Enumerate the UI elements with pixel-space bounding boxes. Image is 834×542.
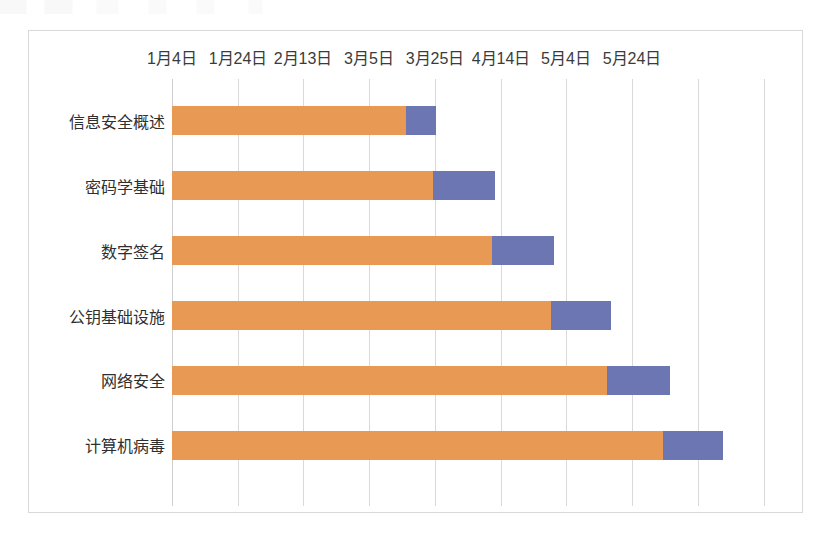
bar-segment-start-offset[interactable] xyxy=(172,106,406,135)
y-tick-label-1: 密码学基础 xyxy=(85,174,165,198)
bar-segment-duration[interactable] xyxy=(433,171,496,200)
y-tick-label-3: 公钥基础设施 xyxy=(69,304,165,328)
x-tick-label-2: 2月13日 xyxy=(274,45,333,69)
bar-segment-start-offset[interactable] xyxy=(172,366,607,395)
bar-segment-duration[interactable] xyxy=(551,301,610,330)
chart-frame: 1月4日 1月24日 2月13日 3月5日 3月25日 4月14日 5月4日 5… xyxy=(28,30,803,513)
y-tick-label-5: 计算机病毒 xyxy=(85,433,165,457)
x-tick-label-4: 3月25日 xyxy=(406,45,465,69)
x-tick-label-5: 4月14日 xyxy=(472,45,531,69)
bar-segment-start-offset[interactable] xyxy=(172,236,492,265)
x-tick-label-6: 5月4日 xyxy=(541,45,591,69)
category-axis: 信息安全概述 密码学基础 数字签名 公钥基础设施 网络安全 计算机病毒 xyxy=(29,31,165,514)
x-tick-label-3: 3月5日 xyxy=(344,45,394,69)
plot-area: 1月4日 1月24日 2月13日 3月5日 3月25日 4月14日 5月4日 5… xyxy=(29,31,804,514)
bar-segment-duration[interactable] xyxy=(663,431,722,460)
bar-segment-duration[interactable] xyxy=(607,366,670,395)
bar-segment-duration[interactable] xyxy=(492,236,555,265)
bar-segment-duration[interactable] xyxy=(406,106,436,135)
bar-segment-start-offset[interactable] xyxy=(172,431,663,460)
y-tick-label-0: 信息安全概述 xyxy=(69,109,165,133)
bar-segment-start-offset[interactable] xyxy=(172,171,433,200)
x-tick-label-1: 1月24日 xyxy=(209,45,268,69)
y-tick-label-2: 数字签名 xyxy=(101,239,165,263)
x-tick-label-7: 5月24日 xyxy=(603,45,662,69)
scan-artifact-strip xyxy=(0,0,834,14)
bar-segment-start-offset[interactable] xyxy=(172,301,551,330)
y-tick-label-4: 网络安全 xyxy=(101,368,165,392)
